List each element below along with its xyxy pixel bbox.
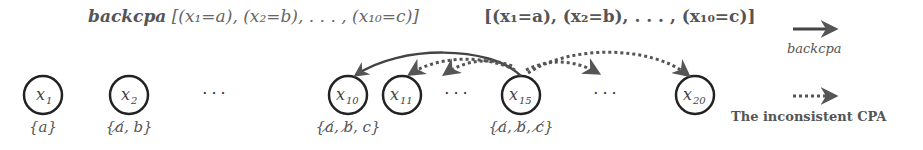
domain-x1: {a} [29,118,57,136]
domain-x2: {a̸, b} [105,118,152,136]
node-x15: x 15 [502,76,540,114]
inconsistent-cpa-arrow-x20 [528,52,688,75]
node-x20: x 20 [676,76,714,114]
ellipsis-x11-x15: ··· [444,84,471,103]
legend-inconsistent-cpa-label: The inconsistent CPA [731,109,886,124]
svg-text:15: 15 [519,95,532,106]
legend-backcpa-label: backcpa [787,41,842,56]
node-x2: x 2 [110,76,148,114]
node-x10: x 10 [329,76,367,114]
inconsistent-cpa-arrow-mid-right [526,62,598,73]
svg-text:1: 1 [46,95,52,106]
svg-text:x: x [390,85,399,104]
svg-text:x: x [121,85,130,104]
svg-text:x: x [509,85,518,104]
svg-text:x: x [683,85,692,104]
svg-text:20: 20 [692,95,706,106]
svg-text:11: 11 [400,95,413,106]
domain-x10: {a̸, b̸, c} [315,118,380,136]
domain-x15: {a̸, b̸, c̸} [488,118,553,136]
svg-text:x: x [36,85,45,104]
ellipsis-x15-x20: ··· [593,84,620,103]
ellipsis-x2-x10: ··· [202,84,229,103]
node-x11: x 11 [383,76,421,114]
svg-text:10: 10 [346,95,359,106]
svg-text:x: x [336,85,345,104]
node-x1: x 1 [24,76,62,114]
svg-text:2: 2 [130,95,137,106]
